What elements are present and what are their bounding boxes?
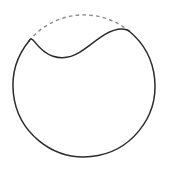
figure-container: [0, 0, 169, 170]
figure-background: [0, 0, 169, 170]
circle-wave-figure: [0, 0, 169, 170]
